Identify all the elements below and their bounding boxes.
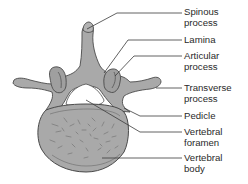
leader-spinous-process xyxy=(87,13,182,29)
label-pedicle: Pedicle xyxy=(184,111,215,122)
label-articular-process: Articular process xyxy=(184,51,219,72)
label-vertebral-foramen: Vertebral foramen xyxy=(184,127,222,148)
vertebral-body-shape xyxy=(38,104,129,172)
leader-pedicle xyxy=(124,108,182,116)
label-vertebral-body: Vertebral body xyxy=(184,153,222,174)
label-transverse-process: Transverse process xyxy=(184,83,232,104)
leader-articular-process xyxy=(115,56,182,76)
label-spinous-process: Spinous process xyxy=(184,7,219,28)
label-lamina: Lamina xyxy=(184,35,215,46)
leader-lamina xyxy=(104,40,182,73)
